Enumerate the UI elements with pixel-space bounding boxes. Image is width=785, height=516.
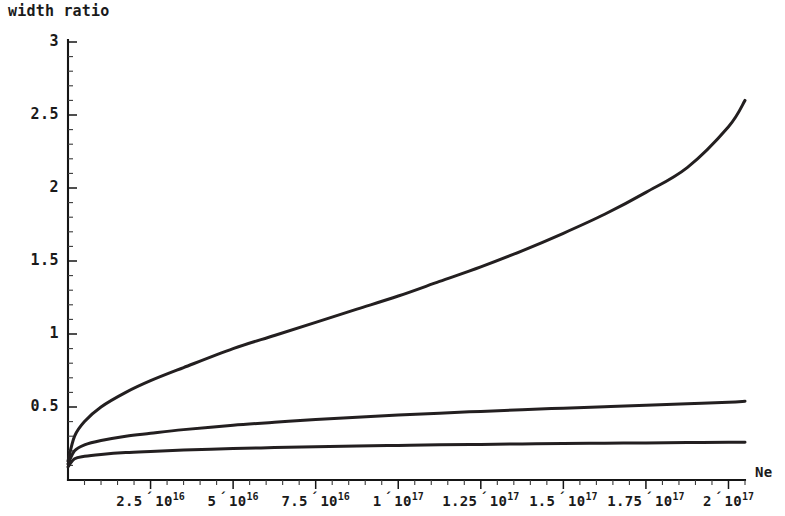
x-tick-exponent: 17 (412, 491, 424, 502)
x-tick-label: 2´1017 (703, 491, 754, 509)
y-tick-label: 2 (49, 178, 59, 196)
x-tick-label: 7.5´1016 (281, 491, 349, 509)
x-tick-mantissa: 1 (373, 493, 382, 509)
multiplication-sign: ´ (381, 490, 394, 506)
data-curve-upper (68, 100, 745, 461)
x-tick-label: 1.75´1017 (607, 491, 684, 509)
x-tick-exponent: 17 (742, 491, 754, 502)
multiplication-sign: ´ (308, 490, 321, 506)
y-tick-label: 1.5 (30, 251, 59, 269)
multiplication-sign: ´ (477, 490, 490, 506)
curves-group (68, 100, 745, 466)
x-tick-label: 1´1017 (373, 491, 424, 509)
x-tick-exponent: 17 (672, 491, 684, 502)
x-tick-label: 1.25´1017 (442, 491, 519, 509)
x-tick-exponent: 17 (586, 491, 598, 502)
x-tick-base: 10 (394, 493, 411, 509)
x-tick-base: 10 (724, 493, 741, 509)
data-curve-lower (68, 442, 745, 467)
data-curve-middle (68, 401, 745, 464)
x-tick-mantissa: 1.5 (529, 493, 555, 509)
x-tick-base: 10 (568, 493, 585, 509)
x-tick-mantissa: 1.75 (607, 493, 642, 509)
multiplication-sign: ´ (555, 490, 568, 506)
multiplication-sign: ´ (712, 490, 725, 506)
x-tick-label: 2.5´1016 (116, 491, 184, 509)
y-tick-label: 3 (49, 32, 59, 50)
x-tick-base: 10 (655, 493, 672, 509)
x-tick-mantissa: 2.5 (116, 493, 142, 509)
x-tick-mantissa: 5 (208, 493, 217, 509)
x-tick-base: 10 (229, 493, 246, 509)
x-tick-exponent: 17 (507, 491, 519, 502)
y-tick-label: 0.5 (30, 397, 59, 415)
x-tick-label: 1.5´1017 (529, 491, 597, 509)
x-tick-base: 10 (320, 493, 337, 509)
x-tick-label: 5´1016 (208, 491, 259, 509)
ticks-group (68, 42, 745, 489)
x-tick-mantissa: 2 (703, 493, 712, 509)
chart-canvas (0, 0, 785, 516)
x-tick-mantissa: 7.5 (281, 493, 307, 509)
x-axis-label: Ne (755, 464, 772, 480)
y-tick-label: 1 (49, 324, 59, 342)
multiplication-sign: ´ (642, 490, 655, 506)
chart-root: width ratio 0.511.522.53 2.5´10165´10167… (0, 0, 785, 516)
x-tick-base: 10 (155, 493, 172, 509)
multiplication-sign: ´ (143, 490, 156, 506)
x-tick-mantissa: 1.25 (442, 493, 477, 509)
x-tick-exponent: 16 (173, 491, 185, 502)
x-tick-base: 10 (490, 493, 507, 509)
multiplication-sign: ´ (216, 490, 229, 506)
x-tick-exponent: 16 (338, 491, 350, 502)
x-tick-exponent: 16 (247, 491, 259, 502)
y-tick-label: 2.5 (30, 105, 59, 123)
